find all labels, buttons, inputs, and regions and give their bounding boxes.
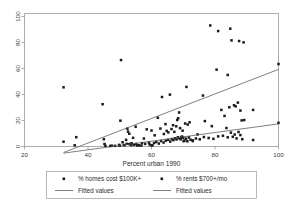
data-point-homes [175, 125, 178, 128]
data-point-homes [134, 125, 137, 128]
data-point-rents [203, 136, 206, 139]
data-point-rents [186, 140, 189, 143]
data-point-homes [177, 117, 180, 120]
data-point-homes [172, 124, 175, 127]
data-point-rents [162, 141, 165, 144]
data-point-homes [234, 105, 237, 108]
data-point-homes [161, 96, 164, 99]
x-tick-label: 100 [273, 151, 284, 158]
data-point-homes [153, 134, 156, 137]
x-axis-title: Percent urban 1990 [123, 160, 181, 167]
data-point-homes [169, 93, 172, 96]
data-point-rents [165, 139, 168, 142]
data-point-rents [232, 136, 235, 139]
data-point-rents [189, 138, 192, 141]
data-point-rents [207, 137, 210, 140]
y-tick-label: 100 [14, 11, 21, 22]
data-point-homes [75, 136, 78, 139]
plot-frame [25, 14, 279, 147]
data-point-homes [73, 144, 76, 147]
chart-figure: 0 20 40 60 80 100 20 40 60 80 100 Percen… [0, 0, 293, 204]
data-point-rents [158, 142, 161, 145]
data-point-rents [169, 140, 172, 143]
data-point-homes [223, 115, 226, 118]
data-point-rents [175, 138, 178, 141]
data-point-homes [185, 86, 188, 89]
data-point-homes [277, 63, 280, 66]
data-point-homes [178, 111, 181, 114]
data-point-homes [140, 144, 143, 147]
data-point-homes [127, 130, 130, 133]
data-point-homes [237, 101, 240, 104]
data-point-rents [153, 142, 156, 145]
data-point-homes [163, 133, 166, 136]
data-point-rents [150, 144, 153, 147]
data-point-homes [181, 129, 184, 132]
data-point-homes [220, 109, 223, 112]
chart-legend: % homes cost $100K+ % rents $700+/mo Fit… [47, 172, 257, 199]
y-axis-ticks: 0 20 40 60 80 100 [14, 11, 25, 148]
data-point-homes [167, 131, 170, 134]
scatter-plot-svg: 0 20 40 60 80 100 20 40 60 80 100 Percen… [0, 0, 293, 204]
data-point-homes [179, 127, 182, 129]
data-point-homes [62, 140, 65, 143]
data-point-homes [159, 127, 162, 130]
legend-label-homes: % homes cost $100K+ [78, 175, 142, 182]
data-point-homes [240, 119, 243, 122]
data-point-homes [226, 74, 229, 77]
data-point-homes [225, 127, 228, 130]
data-point-homes [211, 125, 214, 128]
data-point-homes [204, 120, 207, 123]
data-point-rents [155, 141, 158, 144]
data-point-homes [242, 41, 245, 44]
data-point-rents [241, 138, 244, 141]
data-point-homes [119, 119, 122, 122]
y-tick-label: 60 [14, 65, 21, 72]
legend-label-fitted-rents: Fitted values [176, 187, 212, 194]
data-point-rents [235, 137, 238, 140]
data-point-rents [212, 138, 215, 141]
data-point-rents [185, 137, 188, 140]
y-tick-label: 80 [14, 39, 21, 46]
data-point-rents [243, 119, 246, 122]
data-point-homes [120, 59, 123, 62]
data-point-rents [138, 144, 141, 147]
data-point-homes [228, 106, 231, 109]
x-tick-label: 80 [212, 151, 219, 158]
legend-label-fitted-homes: Fitted values [78, 187, 114, 194]
data-point-rents [104, 145, 107, 148]
data-point-homes [215, 68, 218, 71]
data-point-rents [252, 139, 255, 142]
series-homes-cost-100k [62, 24, 279, 147]
data-point-homes [173, 131, 176, 134]
data-point-homes [202, 94, 205, 97]
data-point-homes [164, 123, 167, 126]
data-point-homes [121, 141, 124, 144]
data-point-rents [237, 131, 240, 134]
data-point-rents [230, 131, 233, 134]
x-axis-ticks: 20 40 60 80 100 [21, 147, 284, 158]
data-point-homes [186, 123, 189, 126]
data-point-homes [157, 117, 160, 120]
data-point-rents [239, 134, 242, 137]
data-point-homes [150, 129, 153, 132]
legend-marker-rents-icon [161, 178, 164, 181]
data-point-rents [188, 136, 191, 139]
data-point-homes [184, 122, 187, 125]
data-point-homes [132, 137, 135, 140]
data-point-homes [239, 109, 242, 112]
data-point-rents [233, 133, 236, 136]
y-tick-label: 0 [14, 144, 21, 148]
data-point-rents [226, 136, 229, 139]
data-point-homes [125, 139, 128, 142]
data-point-homes [128, 132, 131, 135]
y-tick-label: 40 [14, 91, 21, 98]
data-point-homes [229, 27, 232, 30]
data-point-homes [170, 128, 173, 131]
x-tick-label: 60 [148, 151, 155, 158]
data-point-homes [209, 24, 212, 27]
data-point-homes [62, 86, 65, 89]
data-point-homes [103, 138, 106, 141]
data-point-rents [179, 138, 182, 141]
data-point-rents [222, 134, 225, 137]
